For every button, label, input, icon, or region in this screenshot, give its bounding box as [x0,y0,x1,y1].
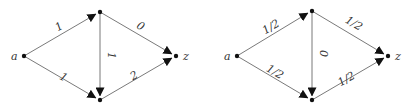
edge-label-bottom-z: 2 [127,68,140,83]
edge-label-top-bottom: 1 [105,52,118,59]
node-a [22,54,26,58]
edge-label-a-bottom: 1/2 [264,62,286,82]
node-label-a: a [11,50,18,63]
edge-label-top-z: 1/2 [343,13,365,33]
node-label-a: a [224,50,231,63]
edge-label-a-top: 1/2 [260,17,282,37]
node-a [235,54,239,58]
left-graph: a z 1 1 1 0 2 [11,10,189,102]
edge-label-a-top: 1 [53,19,66,34]
node-z [174,54,178,58]
node-top [310,9,314,13]
edge-a-top [24,14,96,56]
node-bottom [310,98,314,102]
edge-top-z [100,12,172,54]
node-bottom [98,98,102,102]
node-label-z: z [394,50,401,63]
node-top [98,10,102,14]
edge-label-bottom-z: 1/2 [336,69,358,89]
edge-label-a-bottom: 1 [57,70,70,85]
edge-label-top-bottom: 0 [317,50,330,57]
right-graph: a z 1/2 1/2 0 1/2 1/2 [224,9,401,102]
edge-label-top-z: 0 [134,19,147,34]
flow-diagrams: a z 1 1 1 0 2 a z 1/2 1/2 0 1/2 1/2 [0,0,415,112]
node-z [386,54,390,58]
node-label-z: z [182,50,189,63]
